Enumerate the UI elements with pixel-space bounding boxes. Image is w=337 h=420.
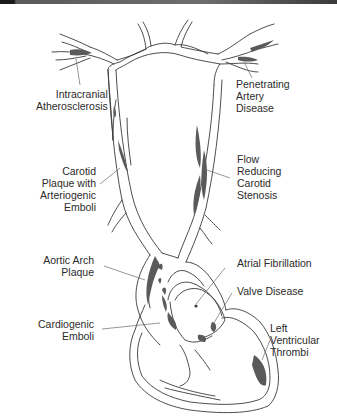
label-carotid-plaque: Carotid Plaque with Arteriogenic Emboli [36,165,96,213]
atrium-marker [194,304,197,307]
label-valve-disease: Valve Disease [237,285,303,297]
label-cardiogenic-emboli: Cardiogenic Emboli [38,318,94,342]
label-penetrating-artery-disease: Penetrating Artery Disease [236,78,290,114]
label-aortic-arch-plaque: Aortic Arch Plaque [40,254,94,278]
label-atrial-fibrillation: Atrial Fibrillation [237,257,312,269]
label-left-ventricular-thrombi: Left Ventricular Thrombi [270,322,320,358]
label-flow-reducing-carotid-stenosis: Flow Reducing Carotid Stenosis [237,153,281,201]
label-intracranial-atherosclerosis: Intracranial Atherosclerosis [36,88,108,112]
